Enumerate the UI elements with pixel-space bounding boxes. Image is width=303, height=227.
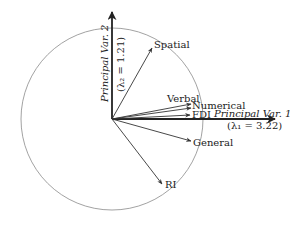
label-ri: RI: [165, 179, 177, 190]
label-fdi: FDI: [192, 109, 211, 120]
axis1-eigenvalue: (λ₁ = 3.22): [227, 120, 282, 131]
biplot-diagram: Spatial Verbal Numerical FDI General RI …: [0, 0, 303, 227]
label-spatial: Spatial: [154, 39, 190, 50]
axis2-label: Principal Var. 2: [99, 25, 110, 103]
axis2-eigenvalue: (λ₂ = 1.21): [115, 37, 126, 92]
axis1-label: Principal Var. 1: [213, 108, 291, 119]
label-general: General: [193, 137, 233, 148]
vector-general: [112, 119, 191, 141]
vector-ri: [112, 119, 162, 184]
